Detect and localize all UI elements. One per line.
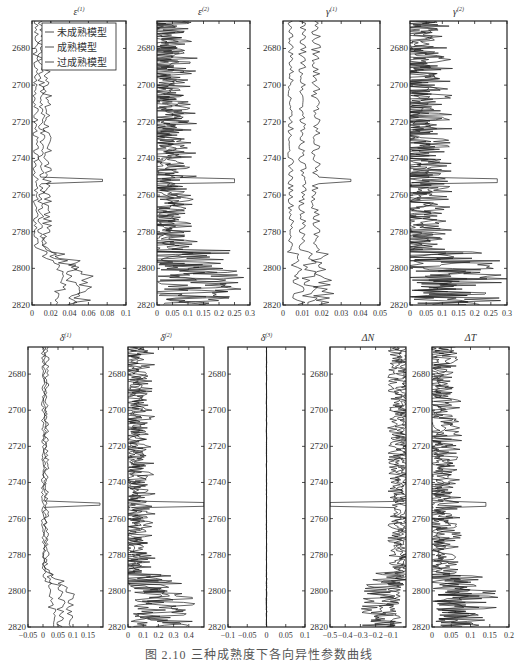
depth-tick-label: 2680 xyxy=(108,369,127,379)
x-tick-label: 0 xyxy=(265,631,269,640)
plot-frame xyxy=(283,21,380,305)
depth-tick-label: 2800 xyxy=(208,586,227,596)
x-tick-label: 0.06 xyxy=(81,309,95,318)
panel-7: δ(3)26802700272027402760278028002820−0.1… xyxy=(208,332,310,640)
depth-tick-label: 2760 xyxy=(412,514,431,524)
curves xyxy=(427,347,498,627)
depth-tick-label: 2700 xyxy=(12,80,31,90)
x-tick-label: 0.1 xyxy=(138,631,148,640)
x-tick-label: 0 xyxy=(430,631,434,640)
depth-tick-label: 2800 xyxy=(310,586,329,596)
x-tick-label: 0.05 xyxy=(51,631,65,640)
depth-tick-label: 2780 xyxy=(137,227,156,237)
legend: 未成熟模型成熟模型过成熟模型 xyxy=(42,23,116,70)
depth-tick-label: 2720 xyxy=(137,117,156,127)
x-tick-label: 0.3 xyxy=(502,309,512,318)
x-tick-label: 0.2 xyxy=(504,631,514,640)
x-tick-label: 0.05 xyxy=(166,309,180,318)
depth-tick-label: 2820 xyxy=(263,300,282,310)
x-tick-label: −0.5 xyxy=(323,631,338,640)
panel-title: δ(1) xyxy=(60,332,72,343)
depth-tick-label: 2800 xyxy=(12,263,31,273)
x-tick-label: 0.15 xyxy=(483,631,497,640)
depth-tick-label: 2780 xyxy=(12,227,31,237)
depth-tick-label: 2720 xyxy=(310,441,329,451)
depth-tick-label: 2740 xyxy=(137,153,156,163)
x-tick-label: 0.05 xyxy=(373,309,387,318)
x-tick-label: 0.25 xyxy=(484,309,498,318)
depth-tick-label: 2780 xyxy=(390,227,409,237)
depth-tick-label: 2760 xyxy=(108,514,127,524)
depth-tick-label: 2680 xyxy=(137,43,156,53)
x-tick-label: −0.1 xyxy=(221,631,236,640)
legend-entry: 成熟模型 xyxy=(57,41,97,53)
depth-tick-label: 2780 xyxy=(208,550,227,560)
curves xyxy=(41,347,100,627)
x-tick-label: 0.04 xyxy=(63,309,77,318)
x-tick-label: −0.4 xyxy=(338,631,353,640)
x-tick-label: 0.2 xyxy=(153,631,163,640)
panel-title: δ(2) xyxy=(160,332,172,343)
depth-tick-label: 2700 xyxy=(8,405,27,415)
panel-title: δ(3) xyxy=(261,332,273,343)
x-tick-label: 0 xyxy=(30,309,34,318)
x-tick-label: 0.05 xyxy=(444,631,458,640)
depth-tick-label: 2700 xyxy=(263,80,282,90)
x-tick-label: −0.3 xyxy=(353,631,368,640)
depth-tick-label: 2760 xyxy=(310,514,329,524)
panel-title: ε(1) xyxy=(74,6,85,17)
x-tick-label: 0.1 xyxy=(183,309,193,318)
x-tick-label: 0.2 xyxy=(470,309,480,318)
x-tick-label: −0.1 xyxy=(384,631,399,640)
depth-tick-label: 2740 xyxy=(310,477,329,487)
x-tick-label: 0.05 xyxy=(419,309,433,318)
panel-2: ε(2)2680270027202740276027802800282000.0… xyxy=(135,6,255,318)
figure-caption: 图 2.10 三种成熟度下各向异性参数曲线 xyxy=(0,645,517,663)
depth-tick-label: 2820 xyxy=(137,300,156,310)
panel-title: γ(1) xyxy=(326,6,337,17)
anisotropy-parameter-figure: ε(1)2680270027202740276027802800282000.0… xyxy=(0,0,517,664)
plot-frame xyxy=(28,347,103,627)
depth-tick-label: 2760 xyxy=(208,514,227,524)
x-tick-label: 0.02 xyxy=(44,309,58,318)
depth-tick-label: 2780 xyxy=(263,227,282,237)
series-line xyxy=(120,347,204,627)
x-tick-label: 0.02 xyxy=(315,309,329,318)
x-tick-label: 0.1 xyxy=(437,309,447,318)
x-tick-label: 0.15 xyxy=(452,309,466,318)
depth-tick-label: 2720 xyxy=(263,117,282,127)
depth-tick-label: 2700 xyxy=(412,405,431,415)
x-tick-label: −0.05 xyxy=(238,631,257,640)
x-tick-label: 0.03 xyxy=(334,309,348,318)
series-line xyxy=(41,347,56,627)
x-tick-label: 0.1 xyxy=(68,631,78,640)
x-tick-label: 0.15 xyxy=(81,631,95,640)
x-tick-label: 0.2 xyxy=(214,309,224,318)
x-tick-label: 0.3 xyxy=(245,309,255,318)
x-tick-label: 0 xyxy=(126,631,130,640)
depth-tick-label: 2760 xyxy=(263,190,282,200)
depth-tick-label: 2680 xyxy=(208,369,227,379)
depth-tick-label: 2680 xyxy=(412,369,431,379)
depth-tick-label: 2680 xyxy=(390,43,409,53)
depth-tick-label: 2800 xyxy=(137,263,156,273)
depth-tick-label: 2700 xyxy=(137,80,156,90)
x-tick-label: 0.25 xyxy=(228,309,242,318)
depth-tick-label: 2820 xyxy=(12,300,31,310)
depth-tick-label: 2760 xyxy=(390,190,409,200)
x-tick-label: −0.2 xyxy=(368,631,383,640)
curves xyxy=(287,21,351,305)
depth-tick-label: 2760 xyxy=(8,514,27,524)
x-tick-label: 0.05 xyxy=(279,631,293,640)
x-tick-label: 0 xyxy=(41,631,45,640)
panel-title: ε(2) xyxy=(198,6,209,17)
depth-tick-label: 2740 xyxy=(412,477,431,487)
panel-4: γ(2)2680270027202740276027802800282000.0… xyxy=(382,6,512,318)
curves xyxy=(118,347,204,627)
depth-tick-label: 2720 xyxy=(12,117,31,127)
depth-tick-label: 2780 xyxy=(8,550,27,560)
depth-tick-label: 2740 xyxy=(390,153,409,163)
depth-tick-label: 2800 xyxy=(108,586,127,596)
depth-tick-label: 2780 xyxy=(412,550,431,560)
depth-tick-label: 2700 xyxy=(208,405,227,415)
